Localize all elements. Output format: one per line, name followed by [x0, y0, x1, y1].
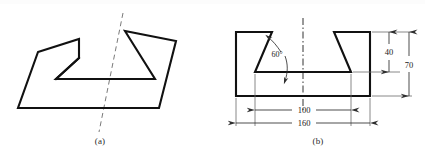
angle-leader-lower — [285, 56, 287, 81]
engineering-figure: (a) — [0, 0, 425, 162]
panel-b-drawing: 100 160 40 70 60° — [0, 0, 425, 162]
dimension-label-60-degrees: 60° — [271, 50, 282, 59]
dimension-label-160: 160 — [298, 118, 311, 128]
dimension-label-70: 70 — [405, 60, 414, 70]
panel-b-caption: (b) — [288, 136, 348, 146]
dimension-label-100: 100 — [298, 105, 311, 115]
dimension-label-40: 40 — [385, 47, 394, 57]
